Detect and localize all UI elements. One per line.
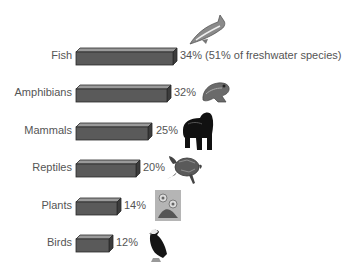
- value-label: 25%: [156, 124, 178, 136]
- gorilla-icon: [180, 108, 216, 156]
- frog-icon: [200, 80, 232, 110]
- bar-row-amphibians: Amphibians 32%: [0, 83, 351, 103]
- bar-reptiles: [76, 160, 141, 175]
- category-label: Mammals: [24, 124, 72, 136]
- bar-plants: [76, 198, 122, 213]
- category-label: Plants: [41, 199, 72, 211]
- bar-birds: [76, 235, 114, 250]
- turtle-icon: [165, 152, 203, 190]
- bar-fish: [76, 48, 178, 63]
- category-label: Birds: [47, 236, 72, 248]
- bar-row-mammals: Mammals 25%: [0, 121, 351, 141]
- category-label: Reptiles: [32, 161, 72, 173]
- value-label: 14%: [124, 199, 146, 211]
- fish-icon: [188, 12, 228, 50]
- flower-icon: [154, 188, 182, 226]
- value-label: 20%: [143, 161, 165, 173]
- bar-mammals: [76, 123, 153, 138]
- value-label: 32%: [174, 86, 196, 98]
- value-label: 34% (51% of freshwater species): [180, 49, 341, 61]
- eagle-icon: [145, 228, 171, 268]
- category-label: Fish: [51, 49, 72, 61]
- value-label: 12%: [116, 236, 138, 248]
- bar-row-birds: Birds 12%: [0, 233, 351, 253]
- bar-row-fish: Fish 34% (51% of freshwater species): [0, 46, 351, 66]
- bar-amphibians: [76, 85, 172, 100]
- category-label: Amphibians: [15, 86, 72, 98]
